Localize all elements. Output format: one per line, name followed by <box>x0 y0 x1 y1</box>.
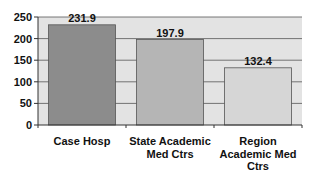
bar-chart: 050100150200250 231.9197.9132.4 Case Hos… <box>0 0 323 173</box>
y-tick-label: 150 <box>14 54 32 66</box>
y-tick-label: 100 <box>14 76 32 88</box>
y-tick-label: 250 <box>14 11 32 23</box>
category-labels: Case HospState AcademicMed CtrsRegionAca… <box>54 135 297 172</box>
category-label: Ctrs <box>247 160 269 172</box>
category-label: State Academic <box>129 135 211 147</box>
data-label: 197.9 <box>156 27 184 39</box>
category-label: Med Ctrs <box>146 148 193 160</box>
bar <box>49 25 116 125</box>
bar <box>225 68 292 125</box>
data-label: 231.9 <box>68 12 96 24</box>
bar <box>137 40 204 125</box>
category-label: Academic Med <box>219 148 296 160</box>
y-tick-label: 50 <box>20 97 32 109</box>
category-label: Region <box>239 135 277 147</box>
y-tick-label: 0 <box>26 119 32 131</box>
data-label: 132.4 <box>244 55 272 67</box>
y-tick-label: 200 <box>14 33 32 45</box>
y-tick-labels: 050100150200250 <box>14 11 32 131</box>
category-label: Case Hosp <box>54 135 111 147</box>
